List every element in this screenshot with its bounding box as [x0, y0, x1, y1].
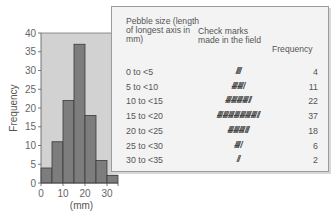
pebble-size-range: 15 to <20 — [126, 111, 163, 121]
frequency-value: 4 — [290, 67, 318, 77]
tally-marks: ////////////////////////////// — [190, 110, 286, 120]
pebble-size-range: 0 to <5 — [126, 67, 153, 77]
x-tick-label: 20 — [79, 188, 91, 199]
frequency-value: 6 — [290, 141, 318, 151]
histogram-bar — [74, 44, 85, 183]
tally-marks: /////////////// — [190, 125, 286, 135]
frequency-value: 11 — [290, 82, 318, 92]
histogram-bar — [63, 101, 74, 184]
header-check-marks: Check marks made in the field — [198, 27, 268, 45]
y-tick-label: 20 — [25, 103, 37, 114]
tally-table-panel: Pebble size (length of longest axis in m… — [111, 6, 329, 172]
y-tick-label: 35 — [25, 46, 37, 57]
pebble-size-range: 30 to <35 — [126, 155, 163, 165]
y-tick-label: 5 — [30, 159, 36, 170]
pebble-size-range: 25 to <30 — [126, 141, 163, 151]
histogram-bar — [85, 116, 96, 184]
header-pebble-size: Pebble size (length of longest axis in m… — [126, 17, 206, 45]
y-tick-label: 30 — [25, 65, 37, 76]
frequency-value: 2 — [290, 155, 318, 165]
y-axis-label: Frequency — [8, 84, 19, 131]
y-tick-label: 40 — [25, 28, 37, 39]
table-row: 30 to <35//2 — [112, 155, 330, 170]
x-axis-label: (mm) — [70, 200, 93, 211]
header-frequency: Frequency — [272, 45, 328, 54]
tally-marks: ///// — [190, 140, 286, 150]
pebble-size-range: 20 to <25 — [126, 126, 163, 136]
histogram-bar — [52, 142, 63, 183]
x-tick-label: 0 — [38, 188, 44, 199]
histogram-bar — [96, 161, 107, 184]
x-tick-label: 30 — [101, 188, 113, 199]
frequency-value: 22 — [290, 96, 318, 106]
x-tick-label: 10 — [57, 188, 69, 199]
y-tick-label: 10 — [25, 140, 37, 151]
tally-marks: ///////// — [190, 81, 286, 91]
histogram-bar — [41, 168, 52, 183]
frequency-value: 18 — [290, 126, 318, 136]
histogram-bar — [107, 176, 118, 184]
pebble-size-range: 10 to <15 — [126, 96, 163, 106]
tally-marks: // — [190, 154, 286, 164]
frequency-value: 37 — [290, 111, 318, 121]
y-tick-label: 25 — [25, 84, 37, 95]
y-tick-label: 15 — [25, 121, 37, 132]
pebble-size-range: 5 to <10 — [126, 82, 158, 92]
y-tick-label: 0 — [30, 178, 36, 189]
tally-marks: //// — [190, 66, 286, 76]
tally-marks: ////////////////// — [190, 95, 286, 105]
